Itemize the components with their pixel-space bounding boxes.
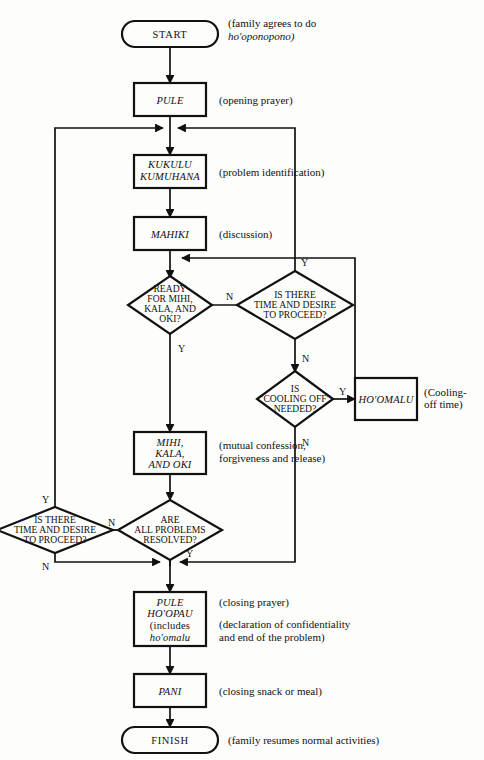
node-pule-hoopau-label-3: (includes [150, 620, 190, 632]
annotation-hoomalu-2: off time) [424, 398, 463, 411]
node-pule-hoopau-label-2: HO'OPAU [146, 608, 194, 619]
node-mahiki-label: MAHIKI [150, 229, 189, 240]
edge-time-bottom-no-to-junction [55, 553, 160, 562]
node-pule-hoopau-label-4: ho'omalu [150, 632, 191, 643]
edge-label-time-bottom-no: N [42, 561, 49, 572]
node-pule-hoopau-label-1: PULE [155, 597, 183, 608]
node-time-bottom-label-3: TO PROCEED? [24, 534, 87, 545]
edge-label-time-top-no: N [302, 353, 309, 364]
edge-label-ready-no: N [226, 291, 233, 302]
edge-label-resolved-no: N [108, 517, 115, 528]
annotation-mahiki: (discussion) [219, 228, 273, 241]
node-hoomalu-label: HO'OMALU [357, 394, 414, 405]
node-pule-label: PULE [155, 95, 183, 106]
edge-label-cooling-yes: Y [339, 386, 346, 397]
annotation-mihi-1: (mutual confession, [219, 439, 306, 452]
node-start-label: START [153, 29, 188, 40]
annotation-pule-hoopau-2: (declaration of confidentiality [219, 618, 351, 631]
annotation-kukulu: (problem identification) [219, 166, 325, 179]
node-kukulu-label-2: KUMUHANA [139, 171, 200, 182]
annotation-pule-hoopau-1: (closing prayer) [219, 596, 289, 609]
flowchart-svg: START PULE KUKULU KUMUHANA MAHIKI READY … [0, 0, 484, 760]
node-mihi-label-3: AND OKI [147, 459, 191, 470]
node-finish-label: FINISH [151, 735, 188, 746]
flowchart-canvas: START PULE KUKULU KUMUHANA MAHIKI READY … [0, 0, 484, 760]
node-cooling-label-3: NEEDED? [274, 403, 317, 414]
node-mihi-label-1: MIHI, [156, 437, 184, 448]
annotation-pani: (closing snack or meal) [219, 685, 322, 698]
annotation-finish: (family resumes normal activities) [228, 734, 380, 747]
node-time-top-label-3: TO PROCEED? [264, 309, 327, 320]
annotation-pule-hoopau-3: and end of the problem) [219, 631, 325, 644]
edge-label-time-top-yes: Y [301, 257, 308, 268]
edge-label-resolved-yes: Y [186, 548, 193, 559]
node-resolved-label-3: RESOLVED? [143, 534, 196, 545]
annotation-start-1: (family agrees to do [228, 17, 317, 30]
node-pani-label: PANI [158, 686, 182, 697]
annotation-mihi-2: forgiveness and release) [219, 452, 325, 465]
annotation-pule: (opening prayer) [219, 94, 293, 107]
node-mihi-label-2: KALA, [154, 448, 184, 459]
edge-label-time-bottom-yes: Y [42, 494, 49, 505]
node-kukulu-label-1: KUKULU [147, 159, 193, 170]
annotation-start-2: ho'oponopono) [228, 30, 295, 43]
node-ready-label-4: OKI? [159, 313, 180, 324]
edge-label-ready-yes: Y [178, 343, 185, 354]
